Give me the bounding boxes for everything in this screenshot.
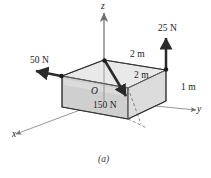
force-50n-label: 50 N xyxy=(30,56,49,66)
box-hidden-edge-diagonal xyxy=(128,119,147,128)
force-diagram-svg xyxy=(0,0,211,178)
force-25n-application-point xyxy=(164,67,168,71)
x-axis-label: x xyxy=(12,130,16,140)
force-150n-label: 150 N xyxy=(93,101,117,111)
dimension-top-rear-label: 2 m xyxy=(130,50,145,60)
y-axis-label: y xyxy=(197,105,201,115)
z-axis-label: z xyxy=(101,2,105,12)
force-50n-application-point xyxy=(59,74,64,79)
origin-label: O xyxy=(91,87,98,97)
box-solid xyxy=(62,60,166,128)
force-25n-label: 25 N xyxy=(158,24,177,34)
dimension-top-front-label: 2 m xyxy=(134,71,149,81)
force-150n-application-point xyxy=(102,58,106,62)
force-50n-vector xyxy=(36,71,64,78)
dimension-height-label: 1 m xyxy=(181,83,196,93)
figure-container: z y x O 50 N 25 N 150 N 2 m 2 m 1 m (a) xyxy=(0,0,211,178)
figure-caption: (a) xyxy=(98,155,109,165)
force-25n-vector xyxy=(164,38,168,72)
